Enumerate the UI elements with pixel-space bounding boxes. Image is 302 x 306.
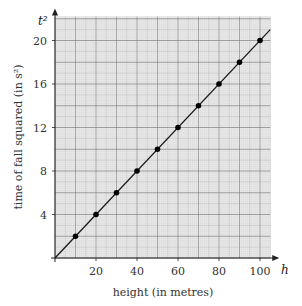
- data-point: [237, 59, 243, 65]
- y-tick-label: 8: [40, 165, 47, 178]
- data-point: [155, 146, 161, 152]
- y-tick-label: 20: [33, 35, 47, 48]
- y-axis-label: time of fall squared (in s²): [12, 64, 25, 209]
- data-point: [114, 190, 120, 196]
- data-point: [257, 38, 263, 44]
- graph-paper-grid: [55, 17, 270, 258]
- data-point: [73, 233, 79, 239]
- x-tick-label: 100: [250, 265, 271, 278]
- y-variable-label: t²: [38, 14, 48, 28]
- chart: 2040608010048121620 height (in metres) t…: [0, 0, 302, 306]
- x-tick-label: 60: [171, 265, 185, 278]
- x-tick-label: 40: [130, 265, 144, 278]
- x-axis-arrow-icon: [272, 255, 279, 261]
- x-variable-label: h: [281, 263, 289, 277]
- grid-background: [55, 17, 270, 258]
- data-point: [93, 212, 99, 218]
- data-point: [216, 81, 222, 87]
- x-tick-label: 20: [89, 265, 103, 278]
- y-tick-label: 12: [33, 122, 47, 135]
- data-point: [175, 125, 181, 131]
- y-axis-arrow-icon: [52, 9, 58, 16]
- y-tick-label: 16: [33, 78, 47, 91]
- y-tick-label: 4: [40, 209, 47, 222]
- data-point: [196, 103, 202, 109]
- x-axis-label: height (in metres): [113, 286, 214, 299]
- data-point: [134, 168, 140, 174]
- x-tick-label: 80: [212, 265, 226, 278]
